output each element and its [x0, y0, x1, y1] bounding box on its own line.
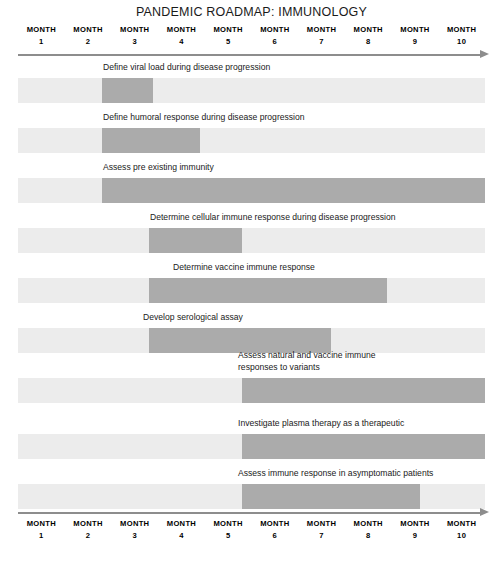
axis-bottom-month-8: MONTH8	[345, 518, 392, 541]
month-number: 1	[18, 530, 65, 542]
month-word: MONTH	[65, 518, 112, 530]
axis-bottom-line	[18, 508, 490, 518]
task-bar-segment	[149, 228, 242, 253]
task-label: Investigate plasma therapy as a therapeu…	[238, 418, 404, 430]
task-track	[18, 278, 485, 303]
task-label: Develop serological assay	[143, 312, 243, 324]
axis-bottom-month-4: MONTH4	[158, 518, 205, 541]
task-track	[18, 78, 485, 103]
task-track	[18, 434, 485, 459]
task-bar-segment	[102, 128, 200, 153]
month-number: 9	[392, 530, 439, 542]
axis-bottom-labels: MONTH1MONTH2MONTH3MONTH4MONTH5MONTH6MONT…	[18, 518, 485, 544]
task-bar-segment	[242, 378, 485, 403]
task-label: Determine cellular immune response durin…	[150, 212, 396, 224]
task-label: Define viral load during disease progres…	[103, 62, 270, 74]
axis-bottom-month-1: MONTH1	[18, 518, 65, 541]
month-number: 7	[298, 530, 345, 542]
axis-rule	[18, 512, 482, 514]
task-track	[18, 178, 485, 203]
month-number: 8	[345, 530, 392, 542]
month-word: MONTH	[205, 518, 252, 530]
axis-bottom-month-9: MONTH9	[392, 518, 439, 541]
task-label: Assess natural and vaccine immune respon…	[238, 350, 376, 373]
arrow-right-icon	[480, 508, 489, 516]
month-number: 6	[252, 530, 299, 542]
task-label: Assess immune response in asymptomatic p…	[238, 468, 433, 480]
month-word: MONTH	[158, 518, 205, 530]
axis-bottom-month-6: MONTH6	[252, 518, 299, 541]
month-word: MONTH	[111, 518, 158, 530]
axis-bottom-month-3: MONTH3	[111, 518, 158, 541]
axis-bottom-month-5: MONTH5	[205, 518, 252, 541]
task-track	[18, 228, 485, 253]
pandemic-roadmap-chart: PANDEMIC ROADMAP: IMMUNOLOGY MONTH1MONTH…	[0, 0, 503, 562]
month-word: MONTH	[345, 518, 392, 530]
month-word: MONTH	[18, 518, 65, 530]
task-bar-segment	[102, 78, 153, 103]
task-label: Assess pre existing immunity	[103, 162, 214, 174]
task-bar-segment	[102, 178, 485, 203]
task-label: Define humoral response during disease p…	[103, 112, 305, 124]
task-bar-segment	[242, 434, 485, 459]
task-bar-segment	[149, 278, 387, 303]
month-number: 4	[158, 530, 205, 542]
task-bar-segment	[242, 484, 419, 509]
task-track	[18, 378, 485, 403]
month-number: 3	[111, 530, 158, 542]
axis-bottom-month-7: MONTH7	[298, 518, 345, 541]
task-label: Determine vaccine immune response	[173, 262, 315, 274]
axis-bottom-month-10: MONTH10	[438, 518, 485, 541]
month-word: MONTH	[298, 518, 345, 530]
month-number: 10	[438, 530, 485, 542]
month-word: MONTH	[392, 518, 439, 530]
axis-bottom: MONTH1MONTH2MONTH3MONTH4MONTH5MONTH6MONT…	[18, 508, 485, 544]
month-number: 5	[205, 530, 252, 542]
task-track	[18, 128, 485, 153]
month-number: 2	[65, 530, 112, 542]
month-word: MONTH	[438, 518, 485, 530]
task-rows: Define viral load during disease progres…	[0, 0, 503, 562]
month-word: MONTH	[252, 518, 299, 530]
task-track	[18, 484, 485, 509]
axis-bottom-month-2: MONTH2	[65, 518, 112, 541]
